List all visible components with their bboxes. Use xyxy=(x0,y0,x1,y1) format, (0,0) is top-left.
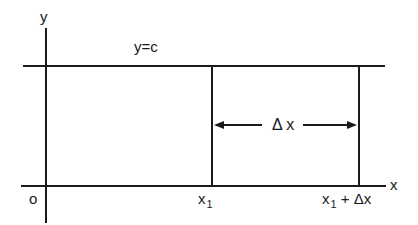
x1-label: x1 xyxy=(198,191,213,206)
x1-label-sub: 1 xyxy=(207,198,213,210)
x1-plus-dx-label: x1 + Δx xyxy=(322,191,371,206)
origin-label: o xyxy=(29,191,37,206)
delta-x-label: Δ x xyxy=(272,117,294,133)
left-arrowhead-icon xyxy=(214,121,224,129)
x-axis-label: x xyxy=(390,177,398,192)
y-axis-label: y xyxy=(40,9,48,24)
x1-label-main: x xyxy=(198,190,206,207)
x1-plus-dx-label-rest: + Δx xyxy=(341,190,371,207)
x1-plus-dx-label-sub: 1 xyxy=(331,198,337,210)
right-arrowhead-icon xyxy=(347,121,357,129)
constant-line-label: y=c xyxy=(134,39,158,54)
x1-plus-dx-label-main: x xyxy=(322,190,330,207)
